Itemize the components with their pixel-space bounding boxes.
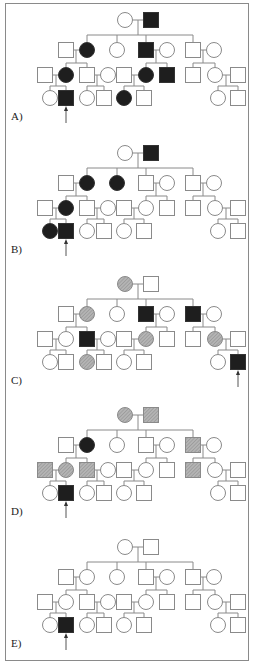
- pedigree-symbols: [38, 277, 246, 370]
- gen4-individual-female: [211, 486, 226, 501]
- pedigree-panel-b: B): [11, 146, 246, 257]
- gen2-individual-female: [207, 43, 222, 58]
- gen4-individual-male: [97, 618, 112, 633]
- gen2-individual-female: [110, 176, 125, 191]
- gen4-individual-female: [211, 355, 226, 370]
- gen1-individual-male: [144, 408, 159, 423]
- gen4-individual-male: [59, 355, 74, 370]
- gen1-individual-male: [144, 540, 159, 555]
- gen3-individual-male: [186, 463, 201, 478]
- gen3-individual-male: [160, 595, 175, 610]
- gen1-individual-female: [118, 13, 133, 28]
- gen2-individual-male: [59, 570, 74, 585]
- gen2-individual-male: [186, 570, 201, 585]
- gen3-individual-female: [59, 463, 74, 478]
- gen3-individual-female: [208, 201, 223, 216]
- gen3-individual-female: [208, 595, 223, 610]
- gen2-individual-female: [80, 307, 95, 322]
- gen2-individual-female: [80, 43, 95, 58]
- gen2-individual-female: [160, 438, 175, 453]
- pedigree-symbols: [38, 146, 246, 239]
- pedigree-panel-e: E): [11, 540, 246, 651]
- pedigree-lines: [45, 20, 238, 98]
- gen2-individual-male: [59, 307, 74, 322]
- pedigree-figure: A)B)C)D)E): [0, 0, 254, 666]
- gen4-individual-female: [117, 224, 132, 239]
- gen3-individual-male: [80, 68, 95, 83]
- gen1-individual-male: [144, 13, 159, 28]
- gen3-individual-female: [101, 595, 116, 610]
- pedigree-panel-a: A): [11, 13, 246, 124]
- gen3-individual-female: [59, 201, 74, 216]
- gen4-individual-male: [59, 486, 74, 501]
- gen2-individual-female: [110, 307, 125, 322]
- gen3-individual-female: [139, 595, 154, 610]
- gen4-individual-female: [43, 91, 58, 106]
- gen4-individual-male: [137, 224, 152, 239]
- gen3-individual-male: [160, 68, 175, 83]
- gen3-individual-female: [101, 201, 116, 216]
- gen3-individual-male: [231, 463, 246, 478]
- gen3-individual-female: [59, 332, 74, 347]
- gen2-individual-female: [160, 570, 175, 585]
- gen3-individual-male: [38, 332, 53, 347]
- gen4-individual-male: [59, 224, 74, 239]
- gen3-individual-male: [80, 463, 95, 478]
- pedigree-lines: [45, 153, 238, 231]
- gen3-individual-male: [117, 463, 132, 478]
- gen4-individual-male: [97, 355, 112, 370]
- gen4-individual-female: [117, 355, 132, 370]
- proband-arrow-icon: [64, 501, 68, 518]
- gen3-individual-female: [139, 332, 154, 347]
- gen3-individual-male: [80, 201, 95, 216]
- gen4-individual-female: [80, 618, 95, 633]
- gen4-individual-female: [117, 91, 132, 106]
- gen4-individual-male: [231, 355, 246, 370]
- gen2-individual-male: [139, 438, 154, 453]
- gen4-individual-female: [211, 224, 226, 239]
- gen4-individual-female: [117, 486, 132, 501]
- gen3-individual-male: [186, 201, 201, 216]
- gen3-individual-male: [231, 68, 246, 83]
- gen3-individual-male: [38, 201, 53, 216]
- gen2-individual-male: [59, 43, 74, 58]
- pedigree-panel-d: D): [11, 408, 246, 519]
- panel-label: D): [11, 505, 23, 518]
- gen3-individual-male: [160, 463, 175, 478]
- gen4-individual-female: [211, 618, 226, 633]
- pedigree-lines: [45, 547, 238, 625]
- gen4-individual-male: [59, 618, 74, 633]
- gen3-individual-male: [117, 332, 132, 347]
- gen4-individual-female: [117, 618, 132, 633]
- gen4-individual-male: [137, 355, 152, 370]
- gen4-individual-male: [137, 486, 152, 501]
- gen4-individual-female: [211, 91, 226, 106]
- gen1-individual-female: [118, 408, 133, 423]
- pedigree-panel-c: C): [11, 277, 246, 388]
- gen2-individual-male: [186, 176, 201, 191]
- gen1-individual-female: [118, 146, 133, 161]
- gen2-individual-male: [139, 176, 154, 191]
- gen3-individual-female: [208, 463, 223, 478]
- pedigree-symbols: [38, 540, 246, 633]
- gen3-individual-female: [139, 463, 154, 478]
- gen3-individual-male: [38, 68, 53, 83]
- gen3-individual-female: [101, 68, 116, 83]
- gen4-individual-female: [80, 224, 95, 239]
- gen3-individual-female: [139, 201, 154, 216]
- gen1-individual-male: [144, 277, 159, 292]
- gen3-individual-male: [160, 201, 175, 216]
- gen4-individual-male: [97, 486, 112, 501]
- gen3-individual-female: [101, 463, 116, 478]
- gen2-individual-female: [207, 307, 222, 322]
- gen4-individual-male: [97, 224, 112, 239]
- gen4-individual-male: [137, 618, 152, 633]
- gen2-individual-male: [186, 43, 201, 58]
- gen3-individual-male: [186, 68, 201, 83]
- gen2-individual-female: [207, 176, 222, 191]
- pedigree-symbols: [38, 408, 246, 501]
- gen2-individual-female: [160, 176, 175, 191]
- panel-label: E): [11, 637, 22, 650]
- gen2-individual-male: [186, 438, 201, 453]
- gen3-individual-male: [231, 201, 246, 216]
